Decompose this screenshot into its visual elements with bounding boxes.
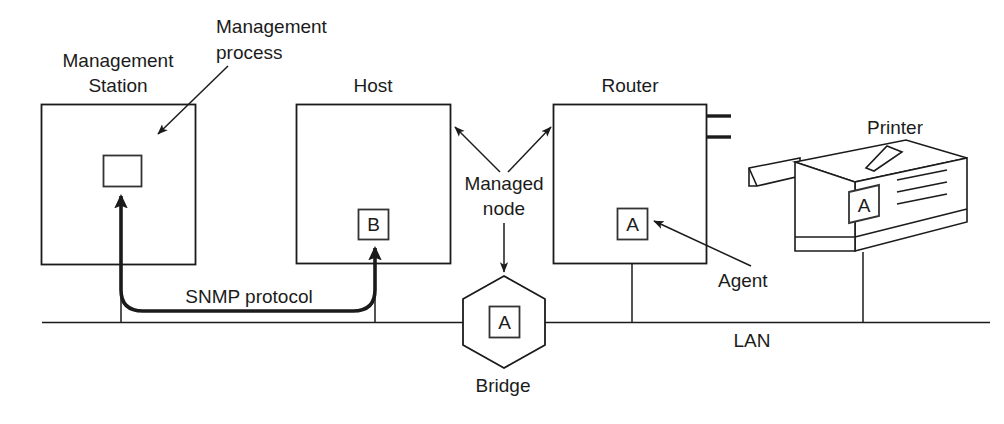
printer-paper-tray xyxy=(749,158,800,186)
bridge-label: Bridge xyxy=(476,375,531,396)
printer-agent-letter: A xyxy=(858,195,871,216)
management-process-box[interactable] xyxy=(104,156,142,187)
managed-node-arrow-to-router xyxy=(508,127,551,172)
lan-label: LAN xyxy=(734,330,771,351)
agent-label: Agent xyxy=(718,270,768,291)
node-printer[interactable]: A Printer xyxy=(749,117,967,251)
router-label: Router xyxy=(601,75,659,96)
managed-node-label-line2: node xyxy=(483,198,525,219)
network-diagram: LAN Management Station Management proces… xyxy=(0,0,1004,424)
diagram-canvas: LAN Management Station Management proces… xyxy=(0,0,1004,424)
router-agent-letter: A xyxy=(626,214,639,235)
host-agent-letter: B xyxy=(367,214,380,235)
node-host[interactable]: B Host xyxy=(297,75,451,264)
node-router[interactable]: A Router xyxy=(554,75,732,264)
printer-label: Printer xyxy=(867,117,924,138)
managed-node-label-line1: Managed xyxy=(464,173,543,194)
bridge-agent-letter: A xyxy=(498,312,511,333)
snmp-protocol-label: SNMP protocol xyxy=(185,286,312,307)
annotation-managed-node: Managed node xyxy=(455,127,551,272)
management-process-label-line1: Management xyxy=(216,16,328,37)
node-management-station[interactable]: Management Station xyxy=(42,50,196,265)
management-station-label-line2: Station xyxy=(88,75,147,96)
host-label: Host xyxy=(353,75,393,96)
managed-node-arrow-to-host xyxy=(455,127,500,172)
management-process-label-line2: process xyxy=(216,42,283,63)
node-bridge[interactable]: A Bridge xyxy=(463,276,545,396)
management-station-label-line1: Management xyxy=(63,50,175,71)
